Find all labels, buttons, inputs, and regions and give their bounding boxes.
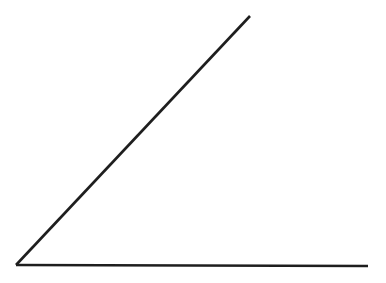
angle-diagram <box>0 0 386 283</box>
canvas-background <box>0 0 386 283</box>
horizontal-ray-line <box>16 265 368 266</box>
figure-canvas <box>0 0 386 283</box>
